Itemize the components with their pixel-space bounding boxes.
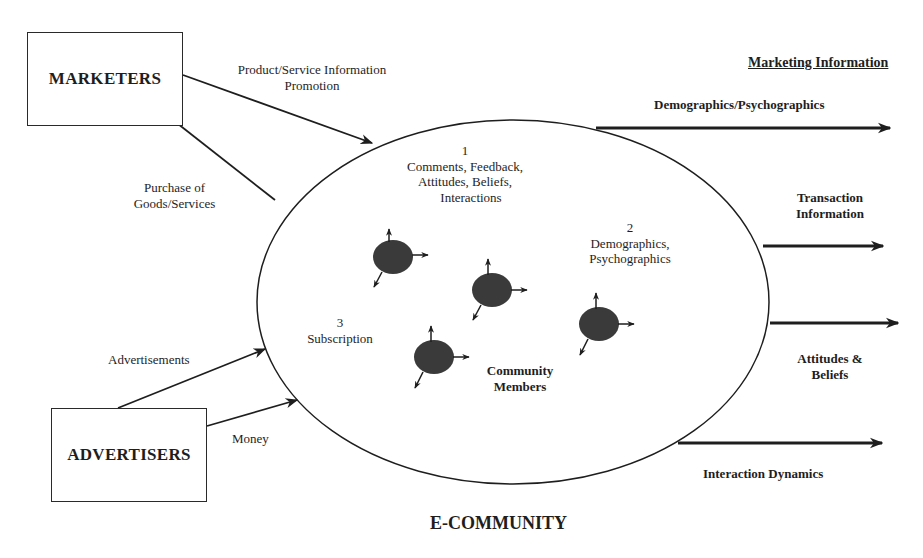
advertisements-label: Advertisements [108,352,190,368]
advertisers-label: ADVERTISERS [67,445,191,465]
member-node-3 [414,326,469,388]
community-item-3: 3 Subscription [290,315,390,346]
money-label: Money [232,431,269,447]
marketers-label: MARKETERS [49,69,161,89]
arrow-money [207,400,297,426]
output-transaction-label: Transaction Information [775,190,885,221]
diagram-title: E-COMMUNITY [430,513,567,535]
member-node-4 [579,293,634,355]
output-attitudes-label: Attitudes & Beliefs [780,351,880,382]
community-members-label: Community Members [470,363,570,394]
marketing-information-header: Marketing Information [748,55,888,72]
product-info-label: Product/Service Information Promotion [212,62,412,93]
output-demographics-label: Demographics/Psychographics [654,97,824,113]
member-node-1 [373,229,428,287]
output-interaction-label: Interaction Dynamics [703,466,823,482]
community-item-2: 2 Demographics, Psychographics [560,220,700,267]
advertisers-box: ADVERTISERS [51,408,207,502]
purchase-label: Purchase of Goods/Services [112,180,237,211]
marketers-box: MARKETERS [27,32,183,126]
community-item-1: 1 Comments, Feedback, Attitudes, Beliefs… [390,143,540,205]
member-node-2 [472,259,527,320]
